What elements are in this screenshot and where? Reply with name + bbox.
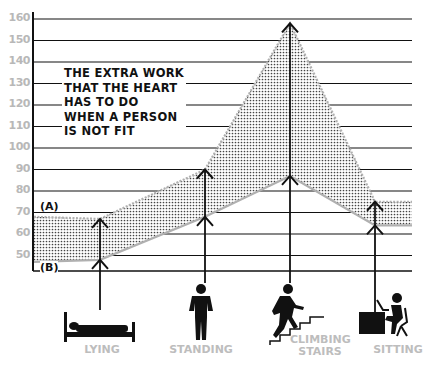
y-tick-label: 130 [2, 76, 30, 89]
extra-work-annotation: THE EXTRA WORK THAT THE HEART HAS TO DO … [62, 66, 186, 139]
category-label-sitting: SITTING [370, 344, 426, 356]
series-b-marker: (B) [40, 261, 58, 274]
category-label-climbing-stairs: CLIMBING STAIRS [290, 334, 350, 358]
y-tick-label: 140 [2, 54, 30, 67]
y-tick-label: 50 [2, 248, 30, 261]
extra-work-shaded-area [34, 23, 412, 262]
bed-lying-person-icon [62, 310, 138, 344]
heart-rate-chart: 5060708090100110120130140150160 THE EXTR… [0, 0, 429, 373]
category-label-lying: LYING [72, 344, 132, 356]
y-tick-label: 150 [2, 33, 30, 46]
category-label-standing: STANDING [168, 344, 234, 356]
y-tick-label: 120 [2, 97, 30, 110]
standing-person-icon [186, 283, 216, 343]
y-tick-label: 160 [2, 11, 30, 24]
y-tick-label: 60 [2, 226, 30, 239]
y-tick-label: 110 [2, 119, 30, 132]
y-tick-label: 80 [2, 183, 30, 196]
sitting-at-desk-person-icon [357, 292, 413, 340]
y-tick-label: 70 [2, 205, 30, 218]
y-tick-label: 100 [2, 140, 30, 153]
series-a-marker: (A) [40, 200, 59, 213]
y-tick-label: 90 [2, 162, 30, 175]
